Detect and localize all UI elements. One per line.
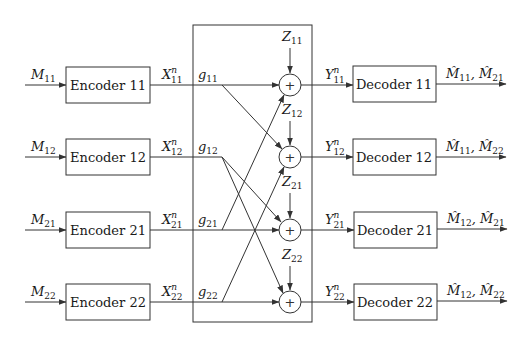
channel-box bbox=[193, 25, 312, 322]
input-label-12: M12 bbox=[30, 139, 56, 156]
plus-icon: + bbox=[285, 150, 296, 165]
output-label-12: M̂11, M̂22 bbox=[445, 139, 504, 156]
rx-label-22: Yn22 bbox=[325, 282, 345, 302]
decoder-21-label: Decoder 21 bbox=[357, 223, 433, 238]
plus-icon: + bbox=[285, 78, 296, 93]
tx-label-21: Xn21 bbox=[161, 210, 183, 230]
decoder-12-label: Decoder 12 bbox=[356, 150, 432, 165]
input-label-21: M21 bbox=[30, 212, 56, 229]
interference-network-diagram: M11 Encoder 11 Xn11 g11 Z11 + Yn11 Decod… bbox=[0, 0, 532, 340]
decoder-22-label: Decoder 22 bbox=[357, 295, 433, 310]
encoder-12-label: Encoder 12 bbox=[70, 150, 146, 165]
encoder-22-label: Encoder 22 bbox=[70, 295, 146, 310]
decoder-11-label: Decoder 11 bbox=[356, 77, 432, 92]
tx-label-22: Xn22 bbox=[161, 282, 183, 302]
plus-icon: + bbox=[285, 223, 296, 238]
tx-label-11: Xn11 bbox=[161, 65, 183, 85]
input-label-22: M22 bbox=[30, 284, 56, 301]
input-label-11: M11 bbox=[30, 67, 56, 84]
encoder-11-label: Encoder 11 bbox=[70, 78, 146, 93]
rx-label-11: Yn11 bbox=[325, 65, 345, 85]
rx-label-21: Yn21 bbox=[325, 210, 345, 230]
output-label-22: M̂12, M̂22 bbox=[446, 283, 505, 300]
rx-label-12: Yn12 bbox=[325, 137, 345, 157]
plus-icon: + bbox=[285, 295, 296, 310]
encoder-21-label: Encoder 21 bbox=[70, 223, 146, 238]
output-label-21: M̂12, M̂21 bbox=[446, 211, 505, 228]
tx-label-12: Xn12 bbox=[161, 137, 183, 157]
output-label-11: M̂11, M̂21 bbox=[445, 66, 504, 83]
